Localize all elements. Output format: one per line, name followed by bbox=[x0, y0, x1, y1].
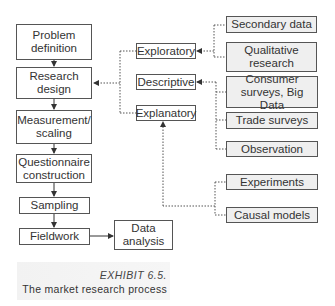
exhibit-caption: EXHIBIT 6.5. The market research process bbox=[17, 262, 170, 300]
research-design-box: Research design bbox=[16, 67, 92, 99]
explanatory-label: Explanatory bbox=[136, 107, 197, 120]
sampling-label: Sampling bbox=[31, 199, 79, 212]
measurement-scaling-label: Measurement/ scaling bbox=[17, 114, 91, 140]
experiments-label: Experiments bbox=[240, 176, 304, 189]
causal-models-label: Causal models bbox=[234, 209, 310, 222]
experiments-box: Experiments bbox=[226, 174, 318, 190]
trade-surveys-box: Trade surveys bbox=[226, 112, 318, 129]
fieldwork-label: Fieldwork bbox=[30, 230, 79, 243]
exploratory-label: Exploratory bbox=[137, 45, 195, 58]
questionnaire-construction-box: Questionnaire construction bbox=[16, 154, 92, 183]
data-analysis-box: Data analysis bbox=[114, 220, 173, 250]
problem-definition-box: Problem definition bbox=[16, 24, 92, 60]
consumer-surveys-label: Consumer surveys, Big Data bbox=[227, 73, 317, 112]
causal-models-box: Causal models bbox=[226, 207, 318, 223]
secondary-data-box: Secondary data bbox=[226, 16, 317, 33]
descriptive-box: Descriptive bbox=[136, 74, 196, 90]
questionnaire-construction-label: Questionnaire construction bbox=[17, 156, 91, 182]
secondary-data-label: Secondary data bbox=[231, 18, 312, 31]
fieldwork-box: Fieldwork bbox=[19, 228, 90, 245]
qualitative-research-label: Qualitative research bbox=[242, 44, 302, 70]
observation-box: Observation bbox=[226, 141, 318, 157]
qualitative-research-box: Qualitative research bbox=[226, 42, 317, 72]
exploratory-box: Exploratory bbox=[136, 43, 196, 59]
data-analysis-label: Data analysis bbox=[119, 222, 169, 248]
explanatory-box: Explanatory bbox=[136, 105, 196, 121]
consumer-surveys-box: Consumer surveys, Big Data bbox=[226, 76, 318, 108]
observation-label: Observation bbox=[241, 143, 303, 156]
measurement-scaling-box: Measurement/ scaling bbox=[16, 110, 92, 144]
problem-definition-label: Problem definition bbox=[24, 29, 84, 55]
descriptive-label: Descriptive bbox=[138, 76, 195, 89]
trade-surveys-label: Trade surveys bbox=[236, 114, 308, 127]
sampling-box: Sampling bbox=[19, 197, 90, 214]
caption-title: EXHIBIT 6.5. bbox=[100, 269, 167, 281]
research-design-label: Research design bbox=[24, 70, 84, 96]
caption-subtitle: The market research process bbox=[22, 283, 167, 295]
